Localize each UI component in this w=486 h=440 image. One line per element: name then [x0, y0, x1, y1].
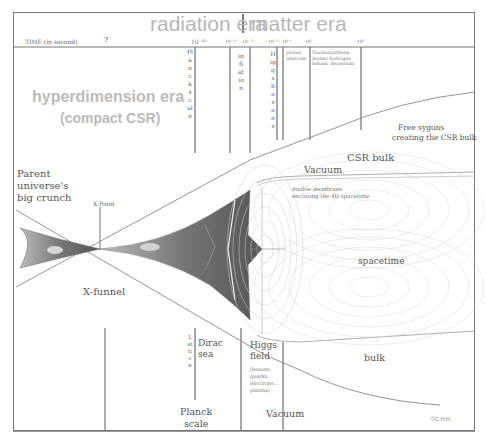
compact-csr-subtitle: (compact CSR)	[60, 110, 160, 126]
bulk-label: bulk	[364, 352, 385, 363]
x-funnel-label: X-funnel	[83, 286, 125, 297]
double-membrane-label: double membrane enclosing the 4D spaceti…	[292, 186, 369, 200]
parent-universe-label: Parent universe's big crunch	[17, 168, 71, 204]
lattice-vertical-label: Lattice	[187, 334, 193, 369]
vacuum-top-label: Vacuum	[304, 164, 342, 175]
spacetime-label: spacetime	[358, 256, 404, 266]
hyperdimension-era-title: hyperdimension era	[32, 88, 184, 106]
time-axis-label: TIME (in second)	[25, 38, 77, 45]
time-tick: 10⁻³²	[242, 39, 254, 45]
time-tick: 10⁻⁶	[282, 39, 292, 45]
higgs-particles-label: (bosons, quarks, electrons... plasma)	[250, 366, 278, 394]
time-tick: 10⁻⁴³	[191, 39, 207, 45]
time-tick: 10⁻¹²	[268, 39, 280, 45]
x-point-label: X-Point	[93, 200, 115, 207]
nucleosynthesis-label: Nucleosynthesis Atomic hydrogen helium, …	[312, 50, 354, 67]
matter-era-title: matter era	[251, 12, 347, 36]
radiation-era-title: radiation era	[150, 12, 267, 36]
unknown-time-marker: ?	[104, 35, 108, 44]
planck-scale-bottom-label: Planck scale	[180, 406, 212, 430]
free-sygons-label: Free sygons creating the CSR bulk	[392, 123, 476, 143]
copyright-label: ©C.H.H.	[431, 416, 452, 422]
dirac-sea-label: Dirac sea	[198, 338, 223, 360]
csr-bulk-label: CSR bulk	[347, 152, 394, 163]
time-tick: 10²	[305, 39, 313, 45]
time-tick: 10⁻³⁶	[225, 39, 237, 45]
higgs-bosons-vertical-label: Higgs bosons	[270, 50, 276, 130]
higgs-field-label: Higgs field	[250, 340, 277, 362]
proton-neutrons-label: proton neutrons	[286, 50, 306, 61]
vacuum-bottom-label: Vacuum	[266, 408, 304, 419]
time-tick: 10⁵	[357, 39, 365, 45]
planck-scale-vertical-label: Planck scale	[187, 48, 193, 120]
inflation-vertical-label: inflation	[238, 52, 244, 92]
